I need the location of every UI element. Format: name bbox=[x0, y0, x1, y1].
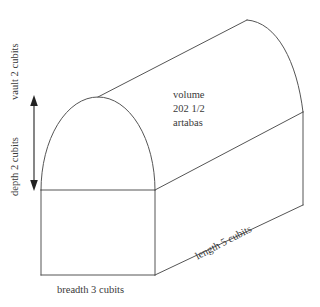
volume-annotation: volume 202 1/2 artabas bbox=[173, 88, 205, 130]
vault-arrow-head-down bbox=[30, 180, 38, 191]
volume-line-3: artabas bbox=[173, 116, 205, 130]
vault-arrow-head-up bbox=[30, 95, 38, 106]
front-arch-curve bbox=[41, 97, 155, 190]
volume-line-2: 202 1/2 bbox=[173, 102, 205, 116]
vault-height-label: vault 2 cubits bbox=[8, 43, 22, 100]
vault-dimension-arrow bbox=[30, 95, 38, 191]
back-arch-curve bbox=[247, 20, 303, 112]
depth-label: depth 2 cubits bbox=[8, 137, 22, 196]
vault-ridge-line bbox=[98, 20, 247, 97]
volume-line-1: volume bbox=[173, 88, 205, 102]
vault-diagram: volume 202 1/2 artabas breadth 3 cubits … bbox=[0, 0, 320, 307]
breadth-label: breadth 3 cubits bbox=[57, 283, 124, 297]
vault-drawing bbox=[0, 0, 320, 307]
